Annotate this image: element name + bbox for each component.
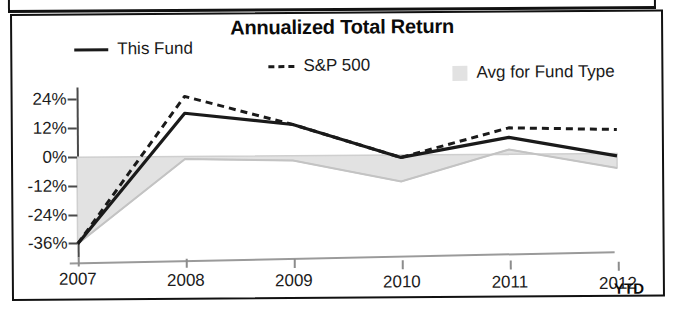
plot-area: 24%12%0%-12%-24%-36% 2007200820092010201… <box>77 84 618 254</box>
chart-panel: Annualized Total Return This Fund S&P 50… <box>10 9 665 301</box>
y-axis-tick-label: 12% <box>33 118 67 138</box>
legend-item-avg-fund-type: Avg for Fund Type <box>452 62 614 83</box>
x-axis-tick-label: 2010 <box>383 272 421 292</box>
chart-inner: Annualized Total Return This Fund S&P 50… <box>12 11 663 299</box>
solid-line-swatch-icon <box>74 48 108 51</box>
y-axis-tick-mark <box>68 214 77 216</box>
y-axis-tick-label: -24% <box>28 205 68 225</box>
legend-label-avg-fund-type: Avg for Fund Type <box>476 62 614 83</box>
legend-item-sp500: S&P 500 <box>268 55 370 76</box>
y-axis-tick-label: -36% <box>28 234 68 254</box>
dashed-line-swatch-icon <box>268 65 294 68</box>
x-axis-line <box>70 251 615 264</box>
y-axis-tick-label: 24% <box>32 90 66 110</box>
x-axis-tick-mark <box>618 262 620 271</box>
x-axis-tick-mark <box>294 259 296 268</box>
x-axis-tick-label: 2007 <box>59 269 97 289</box>
y-axis-tick-label: -12% <box>27 176 67 196</box>
x-axis-tick-label: 2008 <box>167 270 205 290</box>
x-axis-tick-label: 2011 <box>492 273 529 293</box>
x-axis-ytd-label: YTD <box>614 280 644 297</box>
series-area-avg-fund-type <box>77 149 618 244</box>
y-axis-tick-mark <box>68 127 77 129</box>
x-axis-tick-mark <box>510 261 512 270</box>
legend-label-sp500: S&P 500 <box>303 55 370 75</box>
y-axis-tick-mark <box>69 243 78 245</box>
x-axis-tick-mark <box>186 258 188 267</box>
gray-box-swatch-icon <box>452 65 467 80</box>
legend-label-this-fund: This Fund <box>117 39 193 60</box>
legend-item-this-fund: This Fund <box>74 39 193 60</box>
x-axis-tick-mark <box>402 260 404 269</box>
y-axis-tick-label: 0% <box>42 147 67 167</box>
x-axis-tick-mark <box>78 258 80 267</box>
chart-title: Annualized Total Return <box>192 15 492 40</box>
x-axis-tick-label: 2009 <box>275 271 313 291</box>
y-axis-tick-mark <box>68 156 77 158</box>
y-axis-tick-mark <box>68 185 77 187</box>
series-svg <box>77 84 618 254</box>
screenshot-root: Annualized Total Return This Fund S&P 50… <box>0 0 683 313</box>
y-axis-tick-mark <box>68 99 77 101</box>
